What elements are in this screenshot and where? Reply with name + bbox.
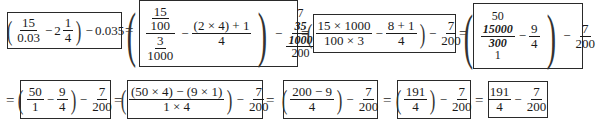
step-8-box: ( 191 4 ) − 7 200 xyxy=(397,80,471,119)
minus-operator: − xyxy=(43,23,54,39)
denominator: 1 xyxy=(30,100,41,114)
minus-operator: − xyxy=(517,28,528,44)
equals-sign: = xyxy=(475,93,483,108)
fraction: 15 × 1000 100 × 3 xyxy=(316,19,373,47)
numerator: 200 − 9 xyxy=(290,85,334,100)
denominator: 200 xyxy=(90,100,114,114)
denominator: 200 xyxy=(450,100,474,114)
numerator: 7 xyxy=(446,19,457,34)
mixed-integer: 2 xyxy=(54,23,61,39)
paren-open: ( xyxy=(307,20,313,48)
paren-close: ) xyxy=(337,86,343,114)
step-2-box: ( 15 100 3 1000 − (2 × 4) + 1 4 ) − 7 xyxy=(139,0,298,67)
fraction: 191 4 xyxy=(488,85,512,113)
minus-operator: − xyxy=(78,92,89,108)
equals-sign: = xyxy=(6,93,14,108)
denominator: 4 xyxy=(396,34,407,48)
denominator: 0.03 xyxy=(15,31,42,45)
complex-fraction: 15 100 3 1000 xyxy=(142,5,178,63)
numerator: 8 + 1 xyxy=(386,19,417,34)
numerator: 9 xyxy=(529,22,540,37)
denominator: 1000 xyxy=(145,49,175,63)
minus-operator: − xyxy=(235,92,246,108)
step-5-box: ( 50 1 − 9 4 ) − 7 200 xyxy=(20,80,111,119)
paren-open: ( xyxy=(126,3,135,65)
numerator: 3 xyxy=(155,34,166,49)
fraction: 191 4 xyxy=(404,85,428,113)
complex-numerator: 15 100 xyxy=(146,5,176,34)
fraction: 3 1000 xyxy=(145,34,175,62)
denominator: 4 xyxy=(216,34,227,48)
cancel-bottom-value: 200 xyxy=(291,47,309,60)
numerator: 15000 xyxy=(481,23,515,37)
paren-close: ) xyxy=(70,86,76,114)
denominator: 1 × 4 xyxy=(161,100,192,114)
fraction: 8 + 1 4 xyxy=(386,19,417,47)
denominator: 100 xyxy=(149,19,173,33)
denominator: 200 xyxy=(574,37,598,51)
numerator: 9 xyxy=(57,85,68,100)
numerator: 7 xyxy=(363,85,374,100)
paren-open: ( xyxy=(395,86,401,114)
numerator: 7 xyxy=(580,22,591,37)
equals-sign: = xyxy=(266,93,274,108)
fraction: 9 4 xyxy=(57,85,68,113)
numerator: 15 × 1000 xyxy=(316,19,373,34)
fraction: 7 200 xyxy=(90,85,114,113)
fraction: 200 − 9 4 xyxy=(290,85,334,113)
fraction: 7 200 xyxy=(450,85,474,113)
paren-close: ) xyxy=(76,17,82,45)
step-9-box: 191 4 − 7 200 xyxy=(488,81,548,118)
paren-open: ( xyxy=(18,86,24,114)
fraction: 15 0.03 xyxy=(15,16,42,44)
paren-open: ( xyxy=(282,86,288,114)
paren-open: ( xyxy=(464,5,473,67)
numerator: 7 xyxy=(253,85,264,100)
numerator: 191 xyxy=(404,85,428,100)
numerator: (50 × 4) − (9 × 1) xyxy=(129,85,224,100)
minus-operator: − xyxy=(427,26,438,42)
numerator: (2 × 4) + 1 xyxy=(192,19,252,34)
paren-close: ) xyxy=(546,5,555,67)
minus-operator: − xyxy=(373,26,384,42)
cancel-bottom-value: 1 xyxy=(495,49,501,62)
paren-open: ( xyxy=(7,17,13,45)
numerator: 15 xyxy=(152,5,169,20)
step-3-box: ( 15 × 1000 100 × 3 − 8 + 1 4 ) − 7 200 xyxy=(313,14,456,53)
numerator: 7 xyxy=(531,85,542,100)
fraction: 15000 300 xyxy=(481,23,515,49)
paren-close: ) xyxy=(227,86,233,114)
fraction: (2 × 4) + 1 4 xyxy=(192,19,252,47)
step-6-box: ( (50 × 4) − (9 × 1) 1 × 4 ) − 7 200 xyxy=(127,80,263,119)
denominator: 200 xyxy=(525,100,549,114)
fraction: 1 4 xyxy=(63,16,74,44)
step-7-box: ( 200 − 9 4 ) − 7 200 xyxy=(283,80,378,119)
paren-open: ( xyxy=(120,86,126,114)
step-4-box: ( 50 15000 300 1 − 9 4 ) − 7 200 xyxy=(473,3,583,69)
numerator: 7 xyxy=(457,85,468,100)
step-1-box: ( 15 0.03 − 2 1 4 ) − 0.035 xyxy=(7,12,122,49)
numerator: 15 xyxy=(20,16,37,31)
fraction: (50 × 4) − (9 × 1) 1 × 4 xyxy=(129,85,224,113)
fraction: 7 200 xyxy=(525,85,549,113)
minus-operator: − xyxy=(344,92,355,108)
fraction: 50 1 xyxy=(27,85,44,113)
paren-close: ) xyxy=(258,3,267,65)
equals-sign: = xyxy=(383,93,391,108)
minus-operator: − xyxy=(273,26,284,42)
numerator: 7 xyxy=(97,85,108,100)
fraction: 7 200 xyxy=(574,22,598,50)
denominator: 4 xyxy=(63,31,74,45)
denominator: 100 × 3 xyxy=(322,34,366,48)
minus-operator: − xyxy=(512,92,523,108)
numerator: 50 xyxy=(27,85,44,100)
fraction: 15 100 xyxy=(149,5,173,33)
paren-close: ) xyxy=(430,86,436,114)
fraction: 9 4 xyxy=(529,22,540,50)
minus-operator: − xyxy=(438,92,449,108)
complex-denominator: 3 1000 xyxy=(142,34,178,62)
denominator: 4 xyxy=(529,37,540,51)
denominator: 200 xyxy=(357,100,381,114)
minus-operator: − xyxy=(179,26,190,42)
numerator: 1 xyxy=(63,16,74,31)
